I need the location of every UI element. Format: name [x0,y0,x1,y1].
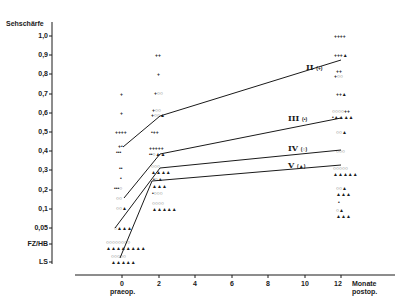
svg-text:▲▲▲▲▲: ▲▲▲▲▲ [152,206,177,212]
svg-text:+○○▲: +○○▲ [151,112,165,118]
svg-text:•▲▲▲▲: •▲▲▲▲ [332,114,354,120]
svg-text:•: • [120,175,122,181]
svg-text:▲▲▲▲▲: ▲▲▲▲▲ [333,171,358,177]
svg-text:++++: ++++ [334,33,346,39]
svg-text:•○○○: •○○○ [152,190,163,196]
svg-text:+○○: +○○ [334,73,343,79]
svg-text:+: + [120,91,123,97]
svg-text:•○▲: •○▲ [153,176,163,182]
svg-text:•++: •++ [151,129,159,135]
svg-text:•••○: •••○ [114,185,122,191]
svg-text:+: + [157,71,160,77]
svg-text:•••: ••• [116,149,122,155]
svg-text:+++▲: +++▲ [334,52,348,58]
svg-text:++++: ++++ [115,129,127,135]
svg-text:▲▲▲: ▲▲▲ [152,183,167,189]
svg-text:▲▲▲▲▲▲▲▲: ▲▲▲▲▲▲▲▲ [106,245,146,251]
svg-text:++▲: ++▲ [336,91,347,97]
svg-text:○▲▲▲: ○▲▲▲ [114,225,132,231]
svg-text:▲▲▲▲▲: ▲▲▲▲▲ [111,259,136,265]
svg-text:○○▲: ○○▲ [116,205,127,211]
svg-text:○○▲: ○○▲ [336,129,347,135]
plot-area: ++ +++++•••• ••• •••○○○○○▲ ○▲▲▲ ○○○○○○○○… [0,0,409,307]
svg-text:••: •• [119,165,123,171]
svg-text:▲▲▲: ▲▲▲ [336,213,351,219]
svg-text:++: ++ [155,52,161,58]
svg-text:••○▲▲: ••○▲▲ [149,151,165,157]
svg-text:○○: ○○ [116,195,122,201]
svg-text:+: + [120,110,123,116]
svg-text:•: • [338,199,340,205]
svg-text:+○○: +○○ [154,90,163,96]
svg-text:▲▲▲: ▲▲▲ [336,191,351,197]
svg-text:▲▲▲▲: ▲▲▲▲ [151,169,171,175]
svg-text:○○○: ○○○ [336,148,345,154]
data-markers: ++ +++++•••• ••• •••○○○○○▲ ○▲▲▲ ○○○○○○○○… [106,33,358,265]
chart: Sehschärfe 1,0 0,9 0,8 0,7 0,6 0,5 0,4 0… [0,0,409,307]
